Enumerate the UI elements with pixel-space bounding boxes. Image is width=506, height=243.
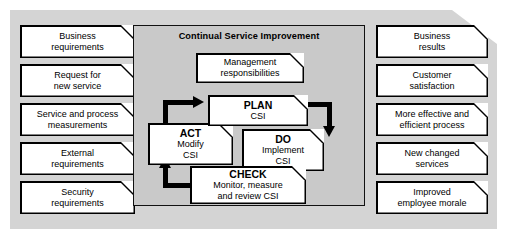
output-note-improved-employee-morale: Improved employee morale [376,181,488,214]
cycle-box-heading: CHECK [213,168,283,181]
note-line: CSI [275,156,290,166]
output-note-more-effective-and-efficient-process: More effective and efficient process [376,103,488,136]
note-line: Business [414,31,451,41]
note-line: CSI [250,111,265,121]
arrow-plan-to-do-head [323,126,335,137]
cycle-box-act: ACT Modify CSI [148,123,233,165]
cycle-box-heading: DO [262,133,304,146]
cycle-box-act-text: ACT Modify CSI [173,127,208,162]
input-note-text: Service and process measurements [32,109,124,131]
management-responsibilities-text: Management responsibilities [216,57,283,79]
note-line: and review CSI [217,191,278,201]
cycle-box-plan-text: PLAN CSI [240,99,277,123]
cycle-box-heading: PLAN [244,99,273,112]
input-note-external-requirements: External requirements [20,142,135,175]
note-line: satisfaction [409,81,454,91]
cycle-box-plan: PLAN CSI [208,95,308,126]
note-line: requirements [51,159,104,169]
note-line: Business [59,31,96,41]
input-note-text: Request for new service [49,70,107,92]
note-line: Security [61,187,94,197]
arrow-act-to-plan-head [193,96,204,108]
diagram-canvas: Business requirements Request for new se… [0,0,506,243]
note-line: results [419,42,446,52]
note-line: employee morale [397,198,466,208]
cycle-box-heading: ACT [177,127,204,140]
arrow-act-to-plan-horizontal [163,100,195,105]
output-note-text: Customer satisfaction [404,70,459,92]
cycle-box-check-text: CHECK Monitor, measure and review CSI [209,168,287,203]
note-line: Modify [177,139,204,149]
note-line: CSI [183,150,198,160]
note-line: Improved [413,187,451,197]
input-note-text: Security requirements [46,187,109,209]
input-note-service-and-process-measurements: Service and process measurements [20,103,135,136]
note-line: efficient process [400,120,465,130]
arrow-check-to-act-vertical [163,167,168,188]
input-note-text: External requirements [46,148,109,170]
cycle-box-do: DO Implement CSI [242,129,324,171]
note-line: Customer [412,70,451,80]
note-line: measurements [48,120,108,130]
output-note-text: Improved employee morale [392,187,471,209]
note-line: Request for [54,70,101,80]
output-note-business-results: Business results [376,25,488,58]
csi-panel-title: Continual Service Improvement [134,31,364,41]
note-line: responsibilities [220,68,279,78]
output-note-customer-satisfaction: Customer satisfaction [376,64,488,97]
output-note-text: New changed services [399,148,464,170]
input-note-business-requirements: Business requirements [20,25,135,58]
cycle-box-check: CHECK Monitor, measure and review CSI [190,166,306,204]
note-line: new service [54,81,102,91]
output-note-new-changed-services: New changed services [376,142,488,175]
note-line: Management [224,57,277,67]
cycle-box-do-text: DO Implement CSI [258,133,308,168]
output-note-text: Business results [409,31,456,53]
input-note-security-requirements: Security requirements [20,181,135,214]
management-responsibilities-box: Management responsibilities [196,53,304,83]
note-line: Service and process [37,109,119,119]
note-line: New changed [404,148,459,158]
input-note-request-for-new-service: Request for new service [20,64,135,97]
output-note-text: More effective and efficient process [390,109,474,131]
note-line: services [415,159,448,169]
note-line: More effective and [395,109,469,119]
arrow-plan-to-do-vertical [327,102,332,128]
input-note-text: Business requirements [46,31,109,53]
note-line: Monitor, measure [213,180,283,190]
note-line: External [61,148,94,158]
note-line: requirements [51,42,104,52]
note-line: Implement [262,145,304,155]
note-line: requirements [51,198,104,208]
